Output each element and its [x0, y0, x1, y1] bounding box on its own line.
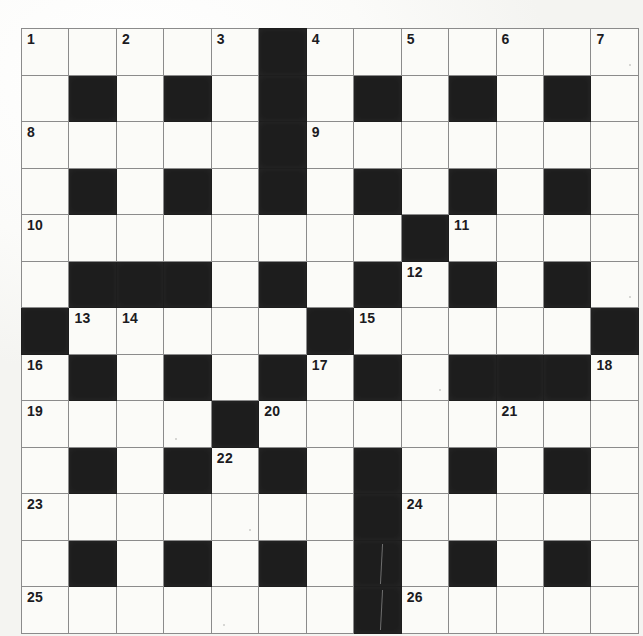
letter-cell[interactable] — [69, 122, 116, 169]
letter-cell[interactable] — [211, 168, 258, 215]
letter-cell[interactable] — [306, 168, 353, 215]
letter-cell[interactable] — [116, 447, 163, 494]
letter-cell[interactable] — [116, 75, 163, 122]
letter-cell[interactable] — [22, 168, 69, 215]
letter-cell[interactable] — [591, 261, 638, 308]
letter-cell[interactable]: 16 — [22, 354, 69, 401]
letter-cell[interactable] — [496, 447, 543, 494]
letter-cell[interactable]: 18 — [591, 354, 638, 401]
letter-cell[interactable] — [591, 447, 638, 494]
letter-cell[interactable] — [543, 308, 590, 355]
letter-cell[interactable] — [116, 494, 163, 541]
letter-cell[interactable] — [591, 401, 638, 448]
letter-cell[interactable] — [116, 168, 163, 215]
letter-cell[interactable] — [69, 215, 116, 262]
letter-cell[interactable] — [354, 29, 401, 76]
letter-cell[interactable] — [164, 587, 211, 634]
letter-cell[interactable] — [116, 215, 163, 262]
letter-cell[interactable]: 2 — [116, 29, 163, 76]
letter-cell[interactable] — [496, 75, 543, 122]
letter-cell[interactable] — [401, 168, 448, 215]
letter-cell[interactable] — [543, 401, 590, 448]
letter-cell[interactable] — [496, 168, 543, 215]
letter-cell[interactable] — [591, 587, 638, 634]
letter-cell[interactable] — [306, 75, 353, 122]
letter-cell[interactable] — [354, 215, 401, 262]
letter-cell[interactable] — [211, 75, 258, 122]
letter-cell[interactable] — [22, 261, 69, 308]
letter-cell[interactable]: 11 — [449, 215, 496, 262]
letter-cell[interactable] — [496, 494, 543, 541]
letter-cell[interactable] — [543, 29, 590, 76]
letter-cell[interactable] — [591, 75, 638, 122]
letter-cell[interactable] — [449, 29, 496, 76]
letter-cell[interactable] — [496, 587, 543, 634]
letter-cell[interactable] — [69, 29, 116, 76]
letter-cell[interactable] — [306, 401, 353, 448]
letter-cell[interactable] — [401, 354, 448, 401]
letter-cell[interactable] — [496, 261, 543, 308]
letter-cell[interactable] — [116, 540, 163, 587]
letter-cell[interactable] — [401, 540, 448, 587]
letter-cell[interactable] — [449, 587, 496, 634]
letter-cell[interactable] — [164, 401, 211, 448]
letter-cell[interactable]: 25 — [22, 587, 69, 634]
letter-cell[interactable]: 21 — [496, 401, 543, 448]
letter-cell[interactable] — [306, 540, 353, 587]
letter-cell[interactable] — [401, 308, 448, 355]
letter-cell[interactable]: 4 — [306, 29, 353, 76]
letter-cell[interactable] — [306, 215, 353, 262]
letter-cell[interactable] — [211, 540, 258, 587]
letter-cell[interactable] — [354, 401, 401, 448]
letter-cell[interactable] — [306, 261, 353, 308]
letter-cell[interactable] — [543, 587, 590, 634]
letter-cell[interactable]: 17 — [306, 354, 353, 401]
letter-cell[interactable] — [211, 494, 258, 541]
letter-cell[interactable] — [543, 122, 590, 169]
letter-cell[interactable] — [211, 122, 258, 169]
letter-cell[interactable] — [116, 401, 163, 448]
letter-cell[interactable] — [449, 122, 496, 169]
letter-cell[interactable] — [164, 29, 211, 76]
letter-cell[interactable]: 10 — [22, 215, 69, 262]
letter-cell[interactable] — [449, 401, 496, 448]
letter-cell[interactable]: 19 — [22, 401, 69, 448]
letter-cell[interactable]: 23 — [22, 494, 69, 541]
letter-cell[interactable] — [401, 122, 448, 169]
letter-cell[interactable] — [591, 540, 638, 587]
letter-cell[interactable] — [496, 122, 543, 169]
letter-cell[interactable] — [116, 354, 163, 401]
letter-cell[interactable] — [69, 587, 116, 634]
letter-cell[interactable]: 20 — [259, 401, 306, 448]
letter-cell[interactable]: 9 — [306, 122, 353, 169]
letter-cell[interactable] — [259, 587, 306, 634]
letter-cell[interactable] — [259, 308, 306, 355]
letter-cell[interactable] — [164, 122, 211, 169]
letter-cell[interactable] — [401, 447, 448, 494]
letter-cell[interactable] — [449, 494, 496, 541]
letter-cell[interactable] — [306, 494, 353, 541]
letter-cell[interactable] — [259, 215, 306, 262]
letter-cell[interactable] — [22, 540, 69, 587]
letter-cell[interactable] — [211, 261, 258, 308]
letter-cell[interactable]: 15 — [354, 308, 401, 355]
letter-cell[interactable] — [543, 215, 590, 262]
letter-cell[interactable] — [211, 308, 258, 355]
letter-cell[interactable]: 26 — [401, 587, 448, 634]
letter-cell[interactable] — [69, 401, 116, 448]
letter-cell[interactable] — [449, 308, 496, 355]
letter-cell[interactable]: 3 — [211, 29, 258, 76]
crossword-grid[interactable]: 1234567891011121314151617181920212223242… — [21, 28, 639, 634]
letter-cell[interactable] — [591, 122, 638, 169]
letter-cell[interactable] — [211, 354, 258, 401]
letter-cell[interactable] — [401, 75, 448, 122]
letter-cell[interactable] — [401, 401, 448, 448]
letter-cell[interactable] — [116, 122, 163, 169]
letter-cell[interactable] — [306, 447, 353, 494]
letter-cell[interactable] — [306, 587, 353, 634]
letter-cell[interactable]: 1 — [22, 29, 69, 76]
letter-cell[interactable] — [69, 494, 116, 541]
letter-cell[interactable]: 5 — [401, 29, 448, 76]
letter-cell[interactable]: 6 — [496, 29, 543, 76]
letter-cell[interactable] — [496, 215, 543, 262]
